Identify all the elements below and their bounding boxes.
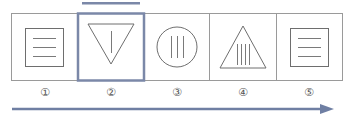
panel-3 [157, 27, 197, 67]
diagram-canvas [0, 0, 348, 118]
right-arrow-icon [12, 104, 334, 114]
highlight-top-bar [82, 2, 140, 5]
panel-label-4: ④ [233, 86, 253, 100]
panel-1 [26, 29, 64, 67]
panel-4 [220, 26, 266, 68]
panel-label-2: ② [101, 86, 121, 100]
triangle-icon [220, 26, 266, 68]
panel-label-5: ⑤ [299, 86, 319, 100]
panel-label-3: ③ [167, 86, 187, 100]
panel-5 [291, 29, 329, 67]
sequence-diagram: ① ② ③ ④ ⑤ [0, 0, 348, 118]
panel-label-1: ① [35, 86, 55, 100]
panel-2 [78, 14, 144, 81]
